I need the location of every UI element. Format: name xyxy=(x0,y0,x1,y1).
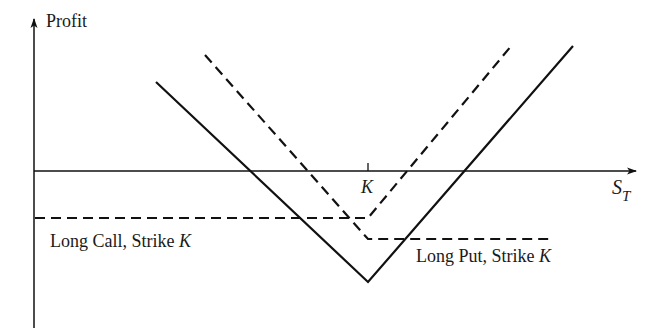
long-put-label: Long Put, Strike K xyxy=(416,246,552,266)
y-axis-label: Profit xyxy=(46,11,87,31)
straddle-payoff-diagram: Profit ST K Long Call, Strike K Long Put… xyxy=(0,0,666,328)
long-call-label: Long Call, Strike K xyxy=(50,231,192,251)
long-put-line xyxy=(205,55,552,239)
x-axis-label: ST xyxy=(612,176,632,204)
strike-tick-label: K xyxy=(360,177,374,197)
